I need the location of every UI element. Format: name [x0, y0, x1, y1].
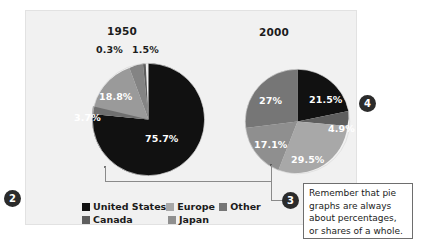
leader-line-horizontal-1950	[105, 181, 272, 182]
pie-2000-label-united-states: 21.5%	[309, 94, 342, 105]
callout-marker-2[interactable]: 2	[4, 190, 21, 207]
legend-swatch-united-states	[82, 203, 90, 211]
legend-row-1: United States Europe Other	[82, 201, 262, 214]
pie-1950-label-other: 1.5%	[132, 44, 159, 55]
legend-label-europe: Europe	[177, 201, 215, 212]
chart-title-2000: 2000	[259, 26, 289, 38]
legend-item-canada: Canada	[82, 214, 168, 225]
legend-label-united-states: United States	[93, 201, 166, 212]
legend-item-europe: Europe	[166, 201, 219, 212]
leader-line-vertical-2000	[271, 165, 272, 201]
chart-legend: United States Europe Other Canada Japan	[82, 201, 262, 227]
legend-label-canada: Canada	[93, 214, 133, 225]
pie-1950-label-europe: 18.8%	[99, 91, 132, 102]
pie-1950-label-japan: 0.3%	[96, 44, 123, 55]
legend-item-japan: Japan	[168, 214, 230, 225]
callout-note-text: Remember that pie graphs are always abou…	[309, 187, 407, 237]
legend-swatch-canada	[82, 216, 90, 224]
callout-note-box: Remember that pie graphs are always abou…	[303, 183, 413, 239]
pie-1950-label-canada: 3.7%	[74, 112, 101, 123]
legend-label-other: Other	[230, 201, 261, 212]
pie-2000-label-europe: 29.5%	[291, 154, 324, 165]
pie-2000-label-other: 27%	[259, 95, 282, 106]
legend-item-united-states: United States	[82, 201, 166, 212]
legend-row-2: Canada Japan	[82, 214, 262, 227]
callout-marker-4[interactable]: 4	[359, 95, 376, 112]
pie-chart-1950	[90, 61, 207, 178]
pie-1950-label-united-states: 75.7%	[145, 133, 178, 144]
leader-line-vertical-1950	[105, 167, 106, 181]
legend-item-other: Other	[219, 201, 262, 212]
pie-2000-label-japan: 17.1%	[254, 139, 287, 150]
legend-swatch-other	[219, 203, 227, 211]
callout-marker-3[interactable]: 3	[282, 192, 299, 209]
pie-2000-label-canada: 4.9%	[328, 123, 355, 134]
legend-label-japan: Japan	[179, 214, 209, 225]
chart-title-1950: 1950	[107, 25, 137, 37]
legend-swatch-japan	[168, 216, 176, 224]
legend-swatch-europe	[166, 203, 174, 211]
